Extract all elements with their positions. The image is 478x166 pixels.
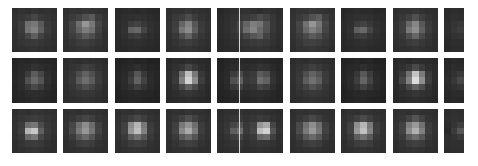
patch-pixel <box>205 147 211 153</box>
patch-pixel <box>237 147 244 153</box>
patch-pixel <box>243 147 250 153</box>
patch-pixel <box>217 97 224 103</box>
heatmap-patch-r2-c1 <box>63 109 108 153</box>
patch-pixel <box>380 97 386 103</box>
patch-pixel <box>102 97 108 103</box>
patch-pixel <box>51 46 57 52</box>
patch-pixel <box>270 46 277 52</box>
patch-pixel <box>444 147 451 153</box>
patch-pixel <box>451 97 458 103</box>
patch-pixel <box>230 46 237 52</box>
heatmap-patch-r2-c8 <box>444 109 464 153</box>
heatmap-patch-r0-c6 <box>341 8 386 52</box>
heatmap-patch-r1-c6 <box>341 58 386 103</box>
heatmap-patch-r0-c1 <box>63 8 108 52</box>
patch-pixel <box>270 147 277 153</box>
heatmap-patch-r2-c6 <box>341 109 386 153</box>
heatmap-patch-r1-c4 <box>217 58 283 103</box>
patch-pixel <box>257 147 264 153</box>
patch-pixel <box>444 97 451 103</box>
heatmap-patch-r2-c0 <box>12 109 57 153</box>
patch-pixel <box>51 97 57 103</box>
patch-pixel <box>250 46 257 52</box>
patch-pixel <box>457 97 464 103</box>
patch-pixel <box>432 147 438 153</box>
patch-pixel <box>237 97 244 103</box>
patch-pixel <box>444 46 451 52</box>
patch-pixel <box>224 97 231 103</box>
heatmap-patch-r0-c5 <box>290 8 335 52</box>
patch-pixel <box>154 97 160 103</box>
patch-pixel <box>217 46 224 52</box>
heatmap-patch-r2-c7 <box>393 109 438 153</box>
patch-pixel <box>154 147 160 153</box>
patch-pixel <box>257 46 264 52</box>
patch-pixel <box>457 147 464 153</box>
patch-pixel <box>263 147 270 153</box>
patch-pixel <box>457 46 464 52</box>
patch-pixel <box>205 46 211 52</box>
patch-pixel <box>243 97 250 103</box>
patch-pixel <box>432 97 438 103</box>
patch-pixel <box>263 46 270 52</box>
patch-pixel <box>230 97 237 103</box>
patch-pixel <box>451 46 458 52</box>
heatmap-patch-r1-c1 <box>63 58 108 103</box>
patch-pixel <box>51 147 57 153</box>
heatmap-patch-r1-c8 <box>444 58 464 103</box>
heatmap-patch-r2-c3 <box>166 109 211 153</box>
patch-pixel <box>250 147 257 153</box>
heatmap-patch-r1-c2 <box>115 58 160 103</box>
splice-seam-line <box>239 109 240 153</box>
patch-pixel <box>230 147 237 153</box>
heatmap-patch-r1-c5 <box>290 58 335 103</box>
patch-pixel <box>276 147 283 153</box>
patch-pixel <box>451 147 458 153</box>
heatmap-patch-r0-c0 <box>12 8 57 52</box>
heatmap-patch-r1-c3 <box>166 58 211 103</box>
heatmap-patch-r0-c3 <box>166 8 211 52</box>
splice-seam-line <box>239 8 240 52</box>
patch-pixel <box>329 97 335 103</box>
patch-pixel <box>329 147 335 153</box>
heatmap-patch-r0-c4 <box>217 8 283 52</box>
patch-pixel <box>380 147 386 153</box>
heatmap-patch-r0-c2 <box>115 8 160 52</box>
splice-seam-line <box>239 58 240 103</box>
patch-pixel <box>329 46 335 52</box>
patch-pixel <box>432 46 438 52</box>
patch-pixel <box>250 97 257 103</box>
patch-pixel <box>102 46 108 52</box>
patch-pixel <box>205 97 211 103</box>
patch-pixel <box>224 147 231 153</box>
patch-pixel <box>257 97 264 103</box>
patch-pixel <box>237 46 244 52</box>
patch-pixel <box>217 147 224 153</box>
heatmap-patch-r2-c4 <box>217 109 283 153</box>
heatmap-patch-r2-c5 <box>290 109 335 153</box>
heatmap-patch-r0-c8 <box>444 8 464 52</box>
patch-pixel <box>276 46 283 52</box>
patch-pixel <box>270 97 277 103</box>
patch-pixel <box>243 46 250 52</box>
patch-pixel <box>380 46 386 52</box>
heatmap-patch-r1-c0 <box>12 58 57 103</box>
patch-pixel <box>263 97 270 103</box>
patch-pixel <box>276 97 283 103</box>
patch-pixel <box>154 46 160 52</box>
patch-pixel <box>102 147 108 153</box>
patch-pixel <box>224 46 231 52</box>
heatmap-patch-r0-c7 <box>393 8 438 52</box>
heatmap-patch-r2-c2 <box>115 109 160 153</box>
heatmap-patch-r1-c7 <box>393 58 438 103</box>
